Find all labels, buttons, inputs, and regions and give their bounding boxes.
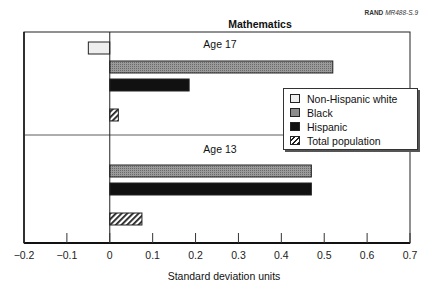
swatch-black-icon xyxy=(290,108,300,117)
bar-hispanic-1 xyxy=(110,183,312,195)
legend: Non-Hispanic white Black Hispanic Total … xyxy=(283,88,418,150)
bar-total-population-0 xyxy=(110,109,119,121)
group-label-age-17: Age 17 xyxy=(180,38,260,50)
legend-label: Black xyxy=(307,107,333,119)
swatch-hispanic-icon xyxy=(290,122,300,131)
x-tick-label: 0.7 xyxy=(403,249,418,261)
x-tick-label: 0.4 xyxy=(274,249,289,261)
x-axis: −0.2−0.100.10.20.30.40.50.60.7 xyxy=(14,233,418,261)
group-label-age-13: Age 13 xyxy=(180,143,260,155)
x-axis-title: Standard deviation units xyxy=(110,270,338,282)
legend-item-hispanic: Hispanic xyxy=(290,120,347,133)
bar-black-1 xyxy=(110,165,312,177)
legend-item-white: Non-Hispanic white xyxy=(290,92,397,105)
bar-total-population-1 xyxy=(110,213,142,225)
legend-label: Hispanic xyxy=(307,121,347,133)
legend-label: Non-Hispanic white xyxy=(307,93,397,105)
legend-label: Total population xyxy=(307,135,381,147)
x-tick-label: 0.1 xyxy=(145,249,160,261)
x-tick-label: −0.2 xyxy=(14,249,35,261)
swatch-white-icon xyxy=(290,94,300,103)
x-tick-label: −0.1 xyxy=(57,249,78,261)
bar-black-0 xyxy=(110,61,333,73)
legend-item-total: Total population xyxy=(290,134,381,147)
bar-hispanic-0 xyxy=(110,79,189,91)
x-tick-label: 0.6 xyxy=(360,249,375,261)
swatch-total-icon xyxy=(290,136,300,145)
x-tick-label: 0.5 xyxy=(317,249,332,261)
x-tick-label: 0.2 xyxy=(188,249,203,261)
bar-non-hispanic-white-0 xyxy=(88,42,109,54)
legend-item-black: Black xyxy=(290,106,333,119)
x-tick-label: 0 xyxy=(107,249,113,261)
x-tick-label: 0.3 xyxy=(231,249,246,261)
